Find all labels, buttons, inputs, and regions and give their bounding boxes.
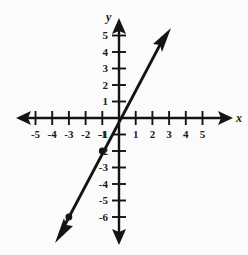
plotted-point-neg3-neg6 [66, 214, 73, 221]
x-tick-label-2: 2 [143, 129, 161, 140]
x-tick-label-neg5: -5 [27, 129, 45, 140]
x-tick-label-neg3: -3 [60, 129, 78, 140]
y-tick-label-1: 1 [90, 96, 108, 107]
x-axis-label: x [236, 112, 242, 124]
y-tick-label-2: 2 [90, 80, 108, 91]
x-tick-label-5: 5 [194, 129, 212, 140]
y-tick-label-3: 3 [90, 63, 108, 74]
y-tick-label-4: 4 [90, 47, 108, 58]
y-tick-label-neg5: -5 [88, 195, 108, 206]
x-tick-label-neg4: -4 [43, 129, 61, 140]
x-tick-label-4: 4 [177, 129, 195, 140]
y-tick-label-neg6: -6 [88, 212, 108, 223]
y-axis-label: y [106, 11, 111, 23]
y-tick-label-neg4: -4 [88, 179, 108, 190]
x-tick-label-3: 3 [160, 129, 178, 140]
x-tick-label-1: 1 [127, 129, 145, 140]
y-tick-label-neg3: -3 [88, 162, 108, 173]
coordinate-plane-figure: -5 -4 -3 -2 -1 1 2 3 4 5 5 4 3 2 1 -1 -2… [0, 0, 248, 255]
line-upper-arrowhead [153, 28, 171, 52]
y-tick-label-neg2: -2 [88, 146, 108, 157]
line-lower-arrowhead [55, 218, 73, 243]
y-tick-label-neg1: -1 [88, 129, 108, 140]
y-tick-label-5: 5 [90, 30, 108, 41]
